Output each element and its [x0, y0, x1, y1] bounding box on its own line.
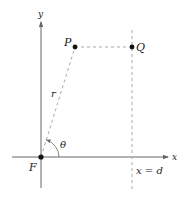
- focus-label: F: [28, 161, 37, 174]
- directrix-label: x = d: [136, 165, 163, 176]
- point-q: [130, 45, 135, 50]
- point-p: [73, 45, 78, 50]
- x-axis-label: x: [172, 152, 177, 162]
- angle-label: θ: [60, 139, 66, 150]
- point-q-label: Q: [136, 41, 145, 54]
- y-axis-label: y: [37, 9, 44, 19]
- polar-conic-diagram: y x F P Q r θ x = d: [0, 0, 193, 198]
- focus-point: [38, 154, 43, 159]
- radius-segment: [41, 47, 75, 157]
- angle-arc: [47, 140, 60, 157]
- point-p-label: P: [63, 36, 72, 49]
- radius-label: r: [51, 88, 57, 99]
